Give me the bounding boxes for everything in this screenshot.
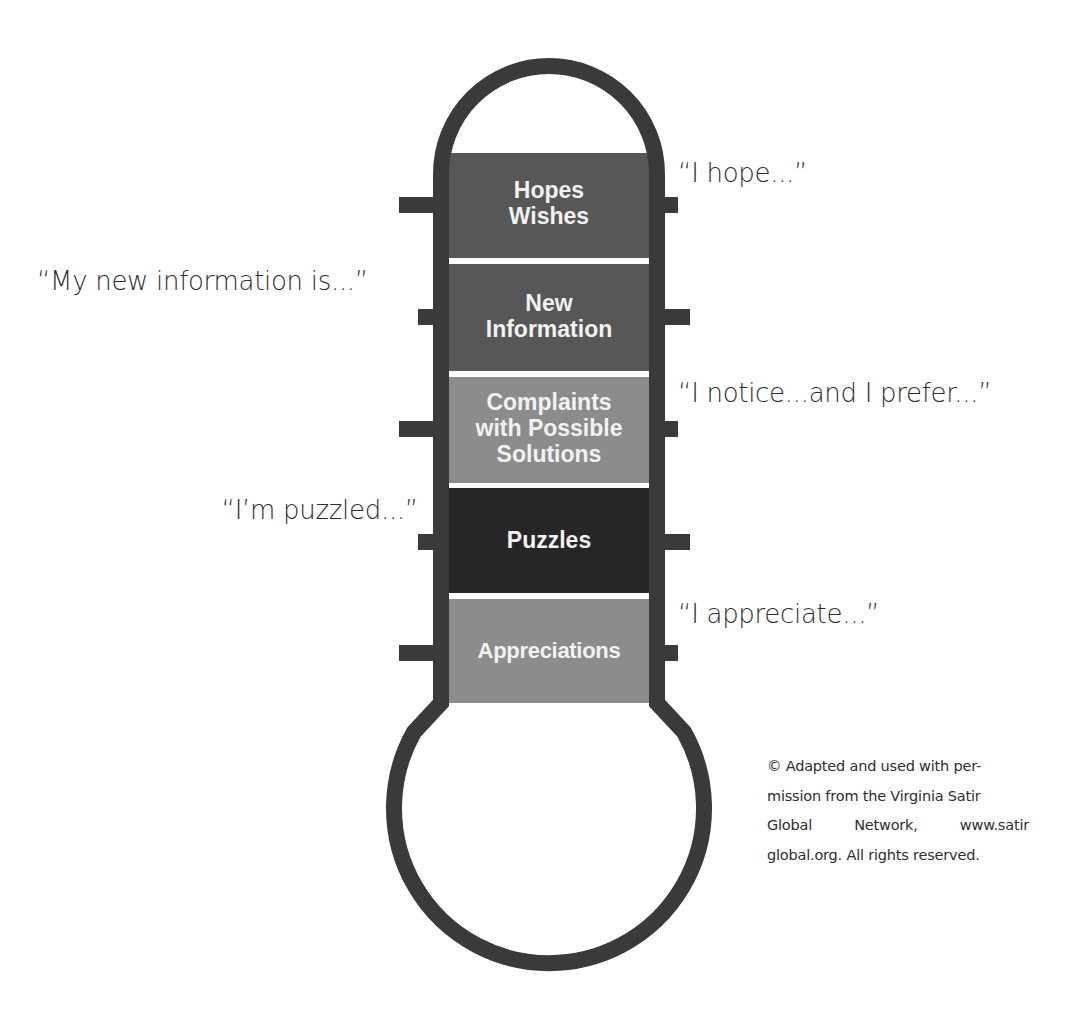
quote-hopes: “I hope...” bbox=[678, 158, 807, 188]
label-line: New bbox=[451, 290, 647, 316]
label-hopes-wishes: Hopes Wishes bbox=[451, 177, 647, 229]
quote-complaints: “I notice...and I prefer...” bbox=[678, 378, 991, 408]
label-appreciations: Appreciations bbox=[451, 638, 647, 664]
copyright-line: © Adapted and used with per- bbox=[767, 752, 1029, 782]
label-puzzles: Puzzles bbox=[451, 527, 647, 553]
separator bbox=[449, 371, 649, 377]
quote-puzzles: “I’m puzzled...” bbox=[222, 495, 418, 525]
separator bbox=[449, 483, 649, 488]
label-complaints: Complaints with Possible Solutions bbox=[451, 389, 647, 467]
label-line: Information bbox=[451, 316, 647, 342]
quote-new-information: “My new information is...” bbox=[37, 266, 368, 296]
separator bbox=[449, 258, 649, 264]
label-line: with Possible bbox=[451, 415, 647, 441]
label-line: Puzzles bbox=[451, 527, 647, 553]
copyright-line: global.org. All rights reserved. bbox=[767, 841, 1029, 871]
label-line: Complaints bbox=[451, 389, 647, 415]
label-line: Solutions bbox=[451, 441, 647, 467]
separator bbox=[449, 593, 649, 599]
label-line: Appreciations bbox=[451, 638, 647, 664]
label-new-information: New Information bbox=[451, 290, 647, 342]
quote-appreciations: “I appreciate...” bbox=[678, 599, 879, 629]
label-line: Wishes bbox=[451, 203, 647, 229]
label-line: Hopes bbox=[451, 177, 647, 203]
copyright-notice: © Adapted and used with per- mission fro… bbox=[767, 752, 1029, 870]
copyright-line: Global Network, www.satir bbox=[767, 811, 1029, 841]
copyright-line: mission from the Virginia Satir bbox=[767, 782, 1029, 812]
